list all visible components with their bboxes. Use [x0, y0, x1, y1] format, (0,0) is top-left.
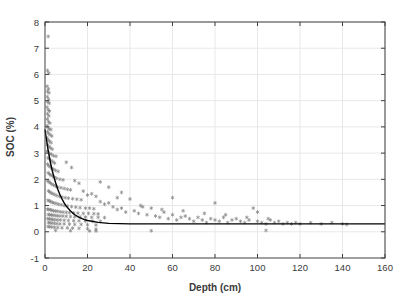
- x-tick-label: 100: [250, 262, 266, 273]
- x-tick-label: 0: [42, 262, 47, 273]
- scatter-plot: 020406080100120140160-1012345678 Depth (…: [0, 0, 408, 300]
- y-tick-label: 7: [34, 43, 39, 54]
- y-tick-label: 0: [34, 226, 39, 237]
- x-tick-label: 40: [125, 262, 136, 273]
- x-tick-label: 140: [335, 262, 351, 273]
- y-tick-label: 2: [34, 174, 39, 185]
- x-tick-label: 60: [167, 262, 178, 273]
- y-tick-label: 3: [34, 148, 39, 159]
- y-tick-label: 5: [34, 95, 39, 106]
- x-tick-label: 120: [292, 262, 308, 273]
- y-axis-label: SOC (%): [5, 117, 16, 157]
- y-tick-label: -1: [31, 253, 39, 264]
- chart-figure: 020406080100120140160-1012345678 Depth (…: [0, 0, 408, 300]
- y-tick-label: 1: [34, 200, 39, 211]
- x-axis-label: Depth (cm): [189, 282, 241, 293]
- plot-background: [0, 0, 408, 300]
- y-tick-label: 6: [34, 69, 39, 80]
- x-tick-label: 160: [377, 262, 393, 273]
- x-tick-label: 20: [82, 262, 93, 273]
- x-tick-label: 80: [210, 262, 221, 273]
- y-tick-label: 4: [34, 121, 39, 132]
- y-tick-label: 8: [34, 17, 39, 28]
